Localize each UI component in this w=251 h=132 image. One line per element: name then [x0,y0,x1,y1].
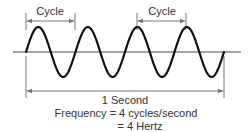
frequency-formula-line1: Frequency = 4 cycles/second [55,108,198,119]
frequency-formula-line2: = 4 Hertz [118,121,163,132]
frequency-diagram: Cycle Cycle 1 Second Frequency = 4 cycle… [0,0,251,132]
one-second-marker [26,56,224,98]
cycle-label-2: Cycle [148,6,176,17]
one-second-label: 1 Second [102,95,148,106]
cycle-label-1: Cycle [36,6,64,17]
